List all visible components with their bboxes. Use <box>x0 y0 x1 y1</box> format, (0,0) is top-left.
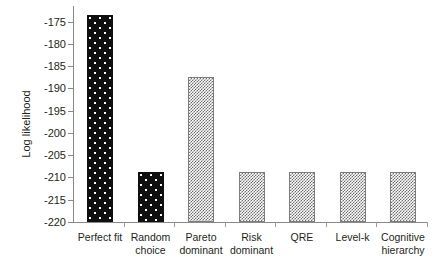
bar-chart: Log likelihood -175-180-185-190-195-200-… <box>0 0 441 276</box>
x-tick-mark <box>427 222 428 227</box>
y-tick-label: -190 <box>0 82 66 94</box>
x-tick-mark <box>376 222 377 227</box>
bar <box>289 172 315 222</box>
bar <box>239 172 265 222</box>
x-axis-line <box>73 222 428 223</box>
x-tick-mark <box>326 222 327 227</box>
plot-area <box>73 6 428 222</box>
x-tick-mark <box>174 222 175 227</box>
y-tick-label: -185 <box>0 60 66 72</box>
bar <box>390 172 416 222</box>
x-tick-mark <box>275 222 276 227</box>
x-axis-label: Cognitivehierarchy <box>371 231 435 256</box>
bar <box>138 172 164 222</box>
y-tick-label: -175 <box>0 16 66 28</box>
x-tick-mark <box>124 222 125 227</box>
x-axis-label-line: dominant <box>220 244 284 257</box>
x-axis-label-line: Cognitive <box>371 231 435 244</box>
y-tick-label: -210 <box>0 171 66 183</box>
bar <box>188 77 214 222</box>
y-tick-label: -220 <box>0 216 66 228</box>
bar <box>340 172 366 222</box>
y-tick-label: -205 <box>0 149 66 161</box>
y-tick-label: -215 <box>0 194 66 206</box>
y-tick-label: -195 <box>0 105 66 117</box>
bar <box>87 15 113 222</box>
x-axis-label-line: hierarchy <box>371 244 435 257</box>
y-tick-label: -200 <box>0 127 66 139</box>
y-tick-mark <box>68 222 73 223</box>
x-tick-mark <box>225 222 226 227</box>
y-tick-label: -180 <box>0 38 66 50</box>
